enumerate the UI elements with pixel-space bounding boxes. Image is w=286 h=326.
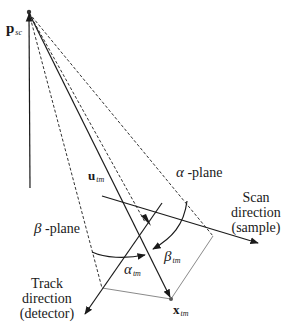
label-p-sc: psc — [6, 20, 22, 37]
label-beta-plane: β -plane — [34, 220, 80, 237]
label-u-tm: utm — [88, 168, 104, 184]
label-scan-direction: Scan direction (sample) — [226, 190, 286, 235]
position-vector-p-sc — [29, 14, 30, 188]
dashed-rays — [29, 13, 213, 288]
point-x-tm — [169, 297, 173, 301]
label-alpha-tm: αtm — [124, 260, 141, 278]
label-beta-tm: βtm — [164, 247, 180, 265]
label-track-direction: Track direction (detector) — [18, 276, 76, 321]
label-x-tm: xtm — [173, 302, 189, 318]
label-alpha-plane: α -plane — [176, 164, 222, 181]
alpha-angle-arc — [92, 252, 145, 257]
footprint-parallelogram — [102, 236, 213, 299]
